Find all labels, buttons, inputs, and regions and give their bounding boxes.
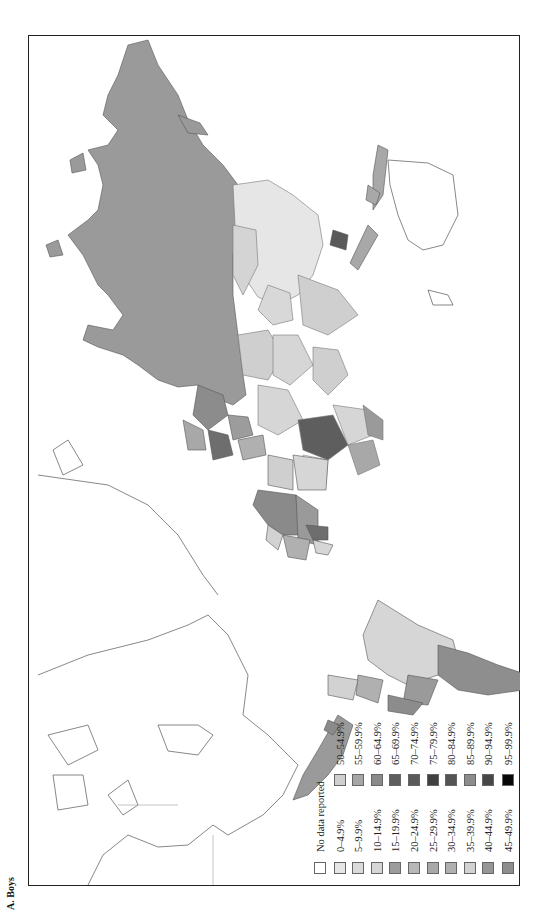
legend-swatch-15-19.9 [389,862,401,874]
region-russia [68,40,246,405]
legend-label: 15–19.9% [390,809,401,852]
legend-swatch-55-59.9 [352,774,364,786]
legend-label: 50–54.9% [335,722,346,765]
legend-label: 70–74.9% [409,722,420,765]
legend-swatch-20-24.9 [408,862,420,874]
legend-swatch-50-54.9 [334,774,346,786]
legend-label: 25–29.9% [428,809,439,852]
legend-label: 35–39.9% [465,809,476,852]
legend-swatch-5-9.9 [352,862,364,874]
legend-label: 45–49.9% [503,809,514,852]
legend-label: No data reported [315,781,326,852]
legend-swatch-30-34.9 [445,862,457,874]
legend-swatch-60-64.9 [371,774,383,786]
legend-label: 60–64.9% [372,722,383,765]
legend-swatch-25-29.9 [427,862,439,874]
legend-label: 65–69.9% [390,722,401,765]
legend-label: 75–79.9% [428,722,439,765]
legend-swatch-0-4.9 [334,862,346,874]
legend-swatch-no-data [314,862,326,874]
legend-swatch-80-84.9 [445,774,457,786]
panel-label: A. Boys [5,870,25,910]
legend-label: 30–34.9% [446,809,457,852]
legend-swatch-65-69.9 [389,774,401,786]
legend-swatch-35-39.9 [464,862,476,874]
panel-label-text: A. Boys [5,877,16,910]
legend-swatch-90-94.9 [482,774,494,786]
legend-label: 95–99.9% [503,722,514,765]
legend-swatch-95-99.9 [502,774,514,786]
legend-label: 0–4.9% [335,820,346,852]
legend-swatch-45-49.9 [502,862,514,874]
legend-swatch-85-89.9 [464,774,476,786]
legend: No data reported 0–4.9% 5–9.9% 10–14.9% … [300,735,518,885]
legend-label: 55–59.9% [353,722,364,765]
legend-label: 90–94.9% [483,722,494,765]
legend-label: 10–14.9% [372,809,383,852]
legend-swatch-10-14.9 [371,862,383,874]
legend-swatch-75-79.9 [427,774,439,786]
legend-label: 5–9.9% [353,820,364,852]
legend-label: 85–89.9% [465,722,476,765]
legend-label: 40–44.9% [483,809,494,852]
legend-swatch-40-44.9 [482,862,494,874]
legend-label: 20–24.9% [409,809,420,852]
legend-label: 80–84.9% [446,722,457,765]
legend-swatch-70-74.9 [408,774,420,786]
